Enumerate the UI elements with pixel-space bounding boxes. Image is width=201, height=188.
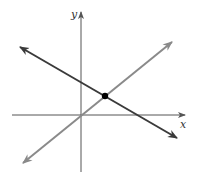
coordinate-diagram: x y: [0, 0, 201, 188]
x-axis-label: x: [180, 118, 187, 131]
intersection-point: [102, 93, 108, 99]
increasing-line: [23, 42, 172, 163]
y-axis-label: y: [70, 8, 78, 21]
decreasing-line: [20, 47, 177, 138]
